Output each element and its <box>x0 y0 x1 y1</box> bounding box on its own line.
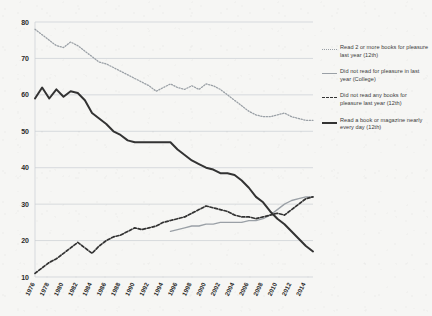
series-line-1 <box>170 197 313 232</box>
y-tick-label: 40 <box>21 164 29 171</box>
x-tick-label: 1978 <box>38 281 51 297</box>
x-tick-label: 2014 <box>294 281 307 297</box>
legend-swatch-dashed-icon <box>322 92 337 104</box>
y-tick-label: 30 <box>21 201 29 208</box>
x-tick-label: 1976 <box>24 281 37 297</box>
legend-label: Read a book or magazine nearly every day… <box>340 117 430 132</box>
legend-item-read-nearly-every-day: Read a book or magazine nearly every day… <box>322 117 430 132</box>
data-series-layer <box>35 29 313 273</box>
x-tick-label: 2010 <box>266 281 279 297</box>
x-tick-label: 2008 <box>252 281 265 297</box>
legend-label: Did not read for pleasure in last year (… <box>340 68 430 83</box>
x-tick-label: 1992 <box>138 281 151 297</box>
x-tick-label: 1986 <box>95 281 108 297</box>
legend-label: Read 2 or more books for pleasure last y… <box>340 44 430 59</box>
x-axis-tick-labels: 1976197819801982198419861988199019921994… <box>24 281 307 297</box>
legend-swatch-solid-gray-icon <box>322 68 337 80</box>
x-tick-label: 1988 <box>109 281 122 297</box>
series-line-3 <box>35 88 313 252</box>
x-tick-label: 2000 <box>195 281 208 297</box>
x-tick-label: 1996 <box>166 281 179 297</box>
x-tick-label: 2012 <box>280 281 293 297</box>
y-tick-label: 80 <box>21 19 29 26</box>
y-tick-label: 60 <box>21 91 29 98</box>
x-tick-label: 2006 <box>237 281 250 297</box>
y-tick-label: 50 <box>21 128 29 135</box>
legend-item-did-not-read-college: Did not read for pleasure in last year (… <box>322 68 430 83</box>
y-axis-tick-labels: 1020304050607080 <box>21 19 29 281</box>
chart-legend: Read 2 or more books for pleasure last y… <box>322 44 430 141</box>
x-tick-label: 2002 <box>209 281 222 297</box>
series-line-0 <box>35 29 313 120</box>
gridlines <box>35 22 313 277</box>
x-tick-label: 1998 <box>180 281 193 297</box>
y-tick-label: 20 <box>21 237 29 244</box>
x-tick-label: 1994 <box>152 281 165 297</box>
x-tick-label: 1990 <box>123 281 136 297</box>
y-tick-label: 70 <box>21 55 29 62</box>
legend-swatch-dotted-icon <box>322 44 337 56</box>
x-tick-label: 1982 <box>66 281 79 297</box>
x-tick-label: 2004 <box>223 281 236 297</box>
x-tick-label: 1980 <box>52 281 65 297</box>
x-tick-label: 1984 <box>81 281 94 297</box>
legend-item-did-not-read-any-books: Did not read any books for pleasure last… <box>322 92 430 107</box>
legend-label: Did not read any books for pleasure last… <box>340 92 430 107</box>
y-tick-label: 10 <box>21 274 29 281</box>
legend-swatch-solid-black-icon <box>322 117 337 129</box>
series-line-2 <box>35 197 313 273</box>
legend-item-read-2-or-more-books: Read 2 or more books for pleasure last y… <box>322 44 430 59</box>
